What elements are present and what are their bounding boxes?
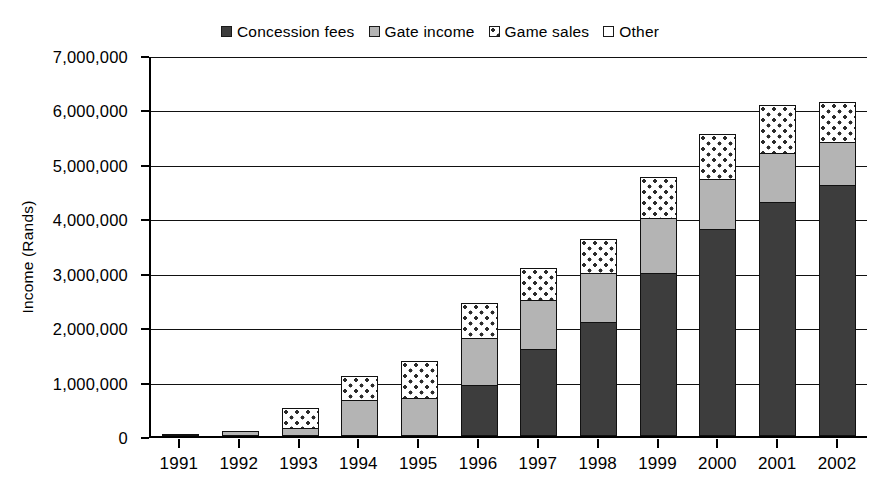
bar-column-2002[interactable] xyxy=(810,57,864,436)
x-axis-tick-mark xyxy=(716,439,718,448)
y-axis-tick-label: 5,000,000 xyxy=(53,158,128,175)
x-axis-tick-label-1995: 1995 xyxy=(391,455,446,472)
legend-swatch-concession-fees-icon xyxy=(221,26,232,37)
y-axis-tick-label: 2,000,000 xyxy=(53,321,128,338)
bar-segment[interactable] xyxy=(580,273,617,322)
x-axis-tick-cell xyxy=(331,439,386,449)
bar-stack[interactable] xyxy=(341,376,378,436)
y-axis-tick-mark xyxy=(141,56,149,58)
y-axis-tick-mark xyxy=(141,328,149,330)
bar-column-1996[interactable] xyxy=(452,57,506,436)
y-axis-tick-labels: 01,000,0002,000,0003,000,0004,000,0005,0… xyxy=(0,57,140,438)
legend-item-other: Other xyxy=(603,24,659,40)
bar-column-1997[interactable] xyxy=(512,57,566,436)
bar-stack[interactable] xyxy=(282,408,319,436)
bar-column-2000[interactable] xyxy=(691,57,745,436)
chart-legend: Concession fees Gate income Game sales O… xyxy=(0,24,880,40)
bar-stack[interactable] xyxy=(640,177,677,436)
bar-segment[interactable] xyxy=(640,177,677,218)
bar-stack[interactable] xyxy=(222,431,259,436)
legend-swatch-game-sales-icon xyxy=(489,26,500,37)
legend-label-game-sales: Game sales xyxy=(505,24,590,40)
bar-stack[interactable] xyxy=(461,303,498,436)
bar-segment[interactable] xyxy=(461,385,498,436)
x-axis-tick-mark xyxy=(298,439,300,448)
bar-segment[interactable] xyxy=(759,202,796,436)
legend-item-game-sales: Game sales xyxy=(489,24,590,40)
y-axis-tick-mark xyxy=(141,219,149,221)
bar-column-1998[interactable] xyxy=(571,57,625,436)
y-axis-tick-label: 1,000,000 xyxy=(53,375,128,392)
bar-column-1992[interactable] xyxy=(213,57,267,436)
bar-segment[interactable] xyxy=(819,142,856,184)
x-axis-tick-label-1993: 1993 xyxy=(271,455,326,472)
x-axis-tick-mark xyxy=(477,439,479,448)
x-axis-tick-cell xyxy=(152,439,207,449)
y-axis-tick-label: 3,000,000 xyxy=(53,266,128,283)
bar-stack[interactable] xyxy=(699,134,736,436)
bar-column-1994[interactable] xyxy=(333,57,387,436)
bar-segment[interactable] xyxy=(759,153,796,202)
y-axis-tick-mark xyxy=(141,383,149,385)
bar-segment[interactable] xyxy=(699,179,736,229)
y-axis-tick-mark xyxy=(141,110,149,112)
x-axis-tick-marks xyxy=(149,439,867,449)
x-axis-tick-label-2001: 2001 xyxy=(750,455,805,472)
bar-segment[interactable] xyxy=(520,300,557,349)
x-axis-tick-label-1994: 1994 xyxy=(331,455,386,472)
bar-segment[interactable] xyxy=(819,102,856,142)
x-axis-tick-cell xyxy=(810,439,865,449)
x-axis-tick-cell xyxy=(511,439,566,449)
bar-segment[interactable] xyxy=(401,398,438,436)
x-axis-tick-cell xyxy=(451,439,506,449)
legend-label-concession-fees: Concession fees xyxy=(237,24,355,40)
bar-column-2001[interactable] xyxy=(750,57,804,436)
stacked-bar-chart: Concession fees Gate income Game sales O… xyxy=(0,0,880,503)
bar-stack[interactable] xyxy=(759,105,796,436)
y-axis-tick-label: 6,000,000 xyxy=(53,103,128,120)
bar-column-1995[interactable] xyxy=(392,57,446,436)
bar-segment[interactable] xyxy=(759,105,796,153)
bar-segment[interactable] xyxy=(341,400,378,436)
bar-stack[interactable] xyxy=(401,361,438,436)
bar-segment[interactable] xyxy=(341,376,378,400)
legend-swatch-other-icon xyxy=(603,26,614,37)
legend-item-concession-fees: Concession fees xyxy=(221,24,355,40)
bar-segment[interactable] xyxy=(520,349,557,436)
bar-segment[interactable] xyxy=(282,428,319,436)
x-axis-tick-mark xyxy=(357,439,359,448)
y-axis-tick-mark xyxy=(141,165,149,167)
x-axis-tick-cell xyxy=(271,439,326,449)
x-axis-tick-labels: 1991199219931994199519961997199819992000… xyxy=(149,455,867,472)
legend-label-other: Other xyxy=(619,24,659,40)
bar-segment[interactable] xyxy=(520,268,557,300)
bar-stack[interactable] xyxy=(162,434,199,436)
x-axis-tick-mark xyxy=(238,439,240,448)
bar-segment[interactable] xyxy=(699,134,736,179)
bar-column-1993[interactable] xyxy=(273,57,327,436)
x-axis-tick-mark xyxy=(836,439,838,448)
x-axis-tick-cell xyxy=(750,439,805,449)
bar-segment[interactable] xyxy=(819,185,856,436)
bar-column-1999[interactable] xyxy=(631,57,685,436)
x-axis-tick-label-1998: 1998 xyxy=(570,455,625,472)
x-axis-tick-cell xyxy=(630,439,685,449)
bar-segment[interactable] xyxy=(640,273,677,436)
bar-segment[interactable] xyxy=(461,338,498,385)
bar-stack[interactable] xyxy=(580,239,617,436)
bar-segment[interactable] xyxy=(461,303,498,338)
bar-segment[interactable] xyxy=(282,408,319,428)
bar-segment[interactable] xyxy=(640,218,677,272)
bar-stack[interactable] xyxy=(819,102,856,436)
bar-series-container xyxy=(151,57,867,436)
bar-segment[interactable] xyxy=(401,361,438,398)
bar-segment[interactable] xyxy=(699,229,736,436)
bar-segment[interactable] xyxy=(580,239,617,273)
bar-segment[interactable] xyxy=(222,431,259,436)
x-axis-tick-label-1996: 1996 xyxy=(451,455,506,472)
legend-item-gate-income: Gate income xyxy=(369,24,475,40)
bar-segment[interactable] xyxy=(162,434,199,436)
bar-segment[interactable] xyxy=(580,322,617,436)
bar-column-1991[interactable] xyxy=(154,57,208,436)
bar-stack[interactable] xyxy=(520,268,557,436)
